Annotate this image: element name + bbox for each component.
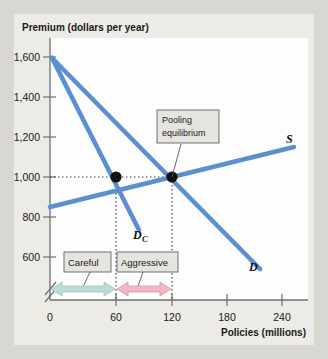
y-tick-label-1400: 1,400: [14, 91, 40, 103]
careful-point-marker: [110, 171, 121, 182]
careful-range-label-text: Careful: [68, 257, 99, 268]
pooling-equilibrium-callout-line2: equilibrium: [162, 128, 206, 138]
x-tick-label-240: 240: [273, 311, 291, 323]
aggressive-range-label-text: Aggressive: [121, 257, 168, 268]
x-tick-label-0: 0: [47, 311, 53, 323]
y-tick-label-1000: 1,000: [14, 171, 40, 183]
x-axis-title: Policies (millions): [221, 327, 306, 338]
x-tick-label-180: 180: [218, 311, 236, 323]
demand-curve-label: D: [248, 260, 258, 274]
y-tick-label-1200: 1,200: [14, 131, 40, 143]
y-tick-label-600: 600: [22, 251, 40, 263]
supply-curve-label: S: [286, 132, 293, 146]
economics-chart: Premium (dollars per year) 1,600 1,400 1…: [14, 14, 314, 345]
x-tick-label-60: 60: [110, 311, 122, 323]
demand-careful-curve-label-main: D: [132, 228, 142, 242]
demand-careful-curve-label-sub: C: [142, 234, 148, 244]
y-axis-title: Premium (dollars per year): [22, 22, 149, 33]
y-tick-label-1600: 1,600: [14, 51, 40, 63]
aggressive-range-label: Aggressive: [117, 252, 178, 272]
pooling-equilibrium-callout: Pooling equilibrium: [157, 110, 219, 143]
pooling-equilibrium-callout-line1: Pooling: [162, 115, 192, 125]
y-tick-label-800: 800: [22, 211, 40, 223]
careful-range-label: Careful: [64, 252, 111, 272]
figure-panel: Premium (dollars per year) 1,600 1,400 1…: [14, 14, 314, 345]
x-tick-label-120: 120: [163, 311, 181, 323]
